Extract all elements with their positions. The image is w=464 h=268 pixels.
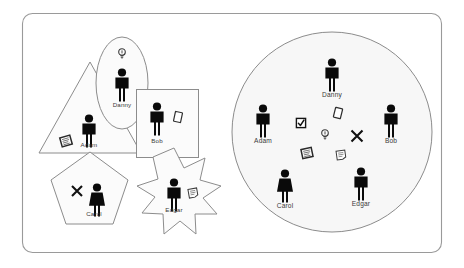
- node-label-bob: Bob: [385, 137, 397, 144]
- diagram-canvas: Adam Danny Bob: [0, 0, 464, 268]
- folded-note-icon: [336, 150, 346, 160]
- scribbled-note-icon: [60, 135, 73, 147]
- node-label-bob: Bob: [151, 137, 163, 144]
- node-label-carol: Carol: [277, 202, 294, 209]
- node-label-adam: Adam: [81, 141, 98, 148]
- blank-card-icon: [173, 111, 182, 122]
- node-label-edgar: Edgar: [352, 200, 371, 208]
- framed-note-icon: [301, 147, 313, 158]
- node-bob-silo[interactable]: Bob: [137, 90, 199, 158]
- node-label-danny: Danny: [322, 91, 342, 99]
- node-label-edgar: Edgar: [165, 206, 182, 213]
- right-panel-shared-circle: Danny Adam Bob Carol: [232, 32, 432, 232]
- rectangle-shape: [137, 90, 199, 158]
- node-label-adam: Adam: [254, 137, 272, 144]
- checked-checkbox-icon: [296, 118, 305, 127]
- node-label-carol: Carol: [86, 210, 102, 217]
- node-label-danny: Danny: [113, 101, 132, 108]
- blank-card-icon: [333, 107, 342, 118]
